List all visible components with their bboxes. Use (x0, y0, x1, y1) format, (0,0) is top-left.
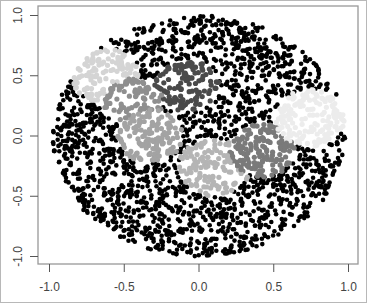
data-point (55, 125, 60, 130)
data-point (93, 217, 98, 222)
data-point (140, 185, 145, 190)
data-point (179, 52, 184, 57)
data-point (92, 204, 97, 209)
data-point (148, 107, 153, 112)
data-point (287, 117, 292, 122)
data-point (202, 174, 207, 179)
data-point (274, 37, 279, 42)
data-point (216, 118, 221, 123)
data-point (149, 193, 154, 198)
data-point (165, 148, 170, 153)
data-point (189, 236, 194, 241)
data-point (260, 25, 265, 30)
data-point (291, 182, 296, 187)
data-point (230, 52, 235, 57)
data-point (234, 232, 239, 237)
data-point (185, 100, 190, 105)
data-point (268, 123, 273, 128)
data-point (183, 243, 188, 248)
data-point (178, 219, 183, 224)
data-point (168, 179, 173, 184)
data-point (141, 63, 146, 68)
data-point (122, 122, 127, 127)
data-point (125, 168, 130, 173)
data-point (154, 207, 159, 212)
data-point (229, 37, 234, 42)
data-point (113, 48, 118, 53)
data-point (303, 67, 308, 72)
data-point (281, 189, 286, 194)
data-point (227, 101, 232, 106)
data-point (206, 119, 211, 124)
data-point (250, 76, 255, 81)
data-point (244, 123, 249, 128)
data-point (229, 188, 234, 193)
x-tick-label: 0.5 (265, 280, 282, 294)
data-point (160, 246, 165, 251)
data-point (245, 47, 250, 52)
data-point (298, 153, 303, 158)
data-point (187, 89, 192, 94)
data-point (166, 77, 171, 82)
data-point (213, 164, 218, 169)
data-point (237, 249, 242, 254)
data-point (306, 84, 311, 89)
data-point (179, 180, 184, 185)
data-point (209, 150, 214, 155)
x-axis: -1.0-0.50.00.51.0 (39, 264, 357, 294)
data-point (123, 40, 128, 45)
x-tick-label: -1.0 (39, 280, 60, 294)
data-point (106, 221, 111, 226)
data-point (250, 30, 255, 35)
data-point (179, 127, 184, 132)
data-point (164, 173, 169, 178)
data-point (110, 87, 115, 92)
data-point (78, 151, 83, 156)
data-point (244, 221, 249, 226)
data-point (251, 70, 256, 75)
data-point (163, 69, 168, 74)
data-point (303, 116, 308, 121)
data-point (160, 141, 165, 146)
data-point (271, 168, 276, 173)
data-point (287, 160, 292, 165)
data-point (272, 182, 277, 187)
data-point (204, 60, 209, 65)
data-point (150, 138, 155, 143)
data-point (174, 252, 179, 257)
data-point (121, 72, 126, 77)
data-point (246, 127, 251, 132)
data-point (178, 142, 183, 147)
data-point (97, 119, 102, 124)
data-point (219, 22, 224, 27)
data-point (229, 235, 234, 240)
data-point (83, 151, 88, 156)
data-point (177, 116, 182, 121)
data-point (334, 92, 339, 97)
data-point (252, 185, 257, 190)
data-point (221, 181, 226, 186)
data-point (104, 132, 109, 137)
data-point (233, 69, 238, 74)
data-point (252, 155, 257, 160)
data-point (136, 223, 141, 228)
data-point (169, 206, 174, 211)
data-point (190, 21, 195, 26)
data-point (173, 49, 178, 54)
data-point (231, 93, 236, 98)
data-point (251, 22, 256, 27)
data-point (245, 230, 250, 235)
data-point (212, 57, 217, 62)
data-point (202, 139, 207, 144)
data-point (302, 210, 307, 215)
data-point (295, 190, 300, 195)
data-point (328, 95, 333, 100)
data-point (101, 126, 106, 131)
data-point (260, 208, 265, 213)
data-point (116, 195, 121, 200)
data-point (196, 253, 201, 258)
data-point (142, 45, 147, 50)
data-point (123, 115, 128, 120)
data-point (70, 138, 75, 143)
data-point (237, 117, 242, 122)
